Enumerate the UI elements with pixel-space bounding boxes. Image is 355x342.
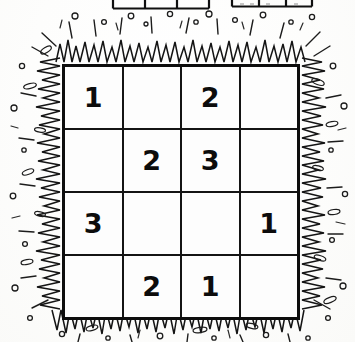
grid-cell-r2c4[interactable]	[240, 129, 299, 192]
grid-cell-r2c1[interactable]	[64, 129, 123, 192]
grid-cell-r2c2[interactable]: 2	[123, 129, 182, 192]
scanned-page: 1 2 2 3 3 1	[0, 0, 355, 342]
grid-row: 2 3	[64, 129, 299, 192]
grid-cell-r3c3[interactable]	[181, 192, 240, 255]
grid-cell-r3c1[interactable]: 3	[64, 192, 123, 255]
grid-cell-r1c3[interactable]: 2	[181, 66, 240, 130]
grid-cell-r1c1[interactable]: 1	[64, 66, 123, 130]
grid-cell-r4c1[interactable]	[64, 255, 123, 319]
grid-cell-r3c2[interactable]	[123, 192, 182, 255]
grid-cell-r1c2[interactable]	[123, 66, 182, 130]
grid-row: 1 2	[64, 66, 299, 130]
grid-cell-r4c3[interactable]: 1	[181, 255, 240, 319]
puzzle-grid[interactable]: 1 2 2 3 3 1	[62, 64, 300, 320]
cut-off-tables	[0, 0, 355, 12]
grid-row: 2 1	[64, 255, 299, 319]
grid-cell-r4c4[interactable]	[240, 255, 299, 319]
grid-cell-r3c4[interactable]: 1	[240, 192, 299, 255]
grid-cell-r1c4[interactable]	[240, 66, 299, 130]
grid-cell-r4c2[interactable]: 2	[123, 255, 182, 319]
grid-row: 3 1	[64, 192, 299, 255]
grid-cell-r2c3[interactable]: 3	[181, 129, 240, 192]
puzzle-grid-container: 1 2 2 3 3 1	[62, 64, 300, 308]
